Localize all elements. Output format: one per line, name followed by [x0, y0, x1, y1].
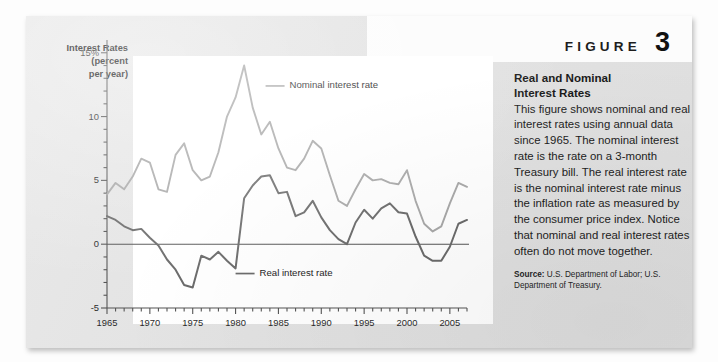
y-tick-label: 5 [51, 174, 99, 185]
figure-word: FIGURE [565, 39, 641, 54]
caption-title: Real and Nominal Interest Rates [514, 70, 690, 101]
y-tick-label: 0 [51, 238, 99, 249]
caption-title-line-2: Interest Rates [514, 85, 690, 100]
figure-number: 3 [655, 30, 670, 54]
x-tick-label: 1990 [301, 317, 341, 328]
x-tick-label: 1985 [258, 317, 298, 328]
x-tick-label: 1975 [173, 317, 213, 328]
figure-panel: FIGURE 3 Interest Rates (percent per yea… [26, 16, 692, 348]
x-tick-label: 2000 [387, 317, 427, 328]
caption-title-line-1: Real and Nominal [514, 70, 690, 85]
y-tick-label: -5 [51, 302, 99, 313]
caption-source-label: Source: [514, 270, 544, 279]
caption-source: Source: U.S. Department of Labor; U.S. D… [514, 269, 690, 292]
x-tick-label: 1995 [344, 317, 384, 328]
y-tick-label: 15% [51, 47, 99, 58]
series-label-nominal: Nominal interest rate [290, 79, 379, 90]
x-tick-label: 2005 [430, 317, 470, 328]
caption-body: This figure shows nominal and real inter… [514, 102, 690, 260]
figure-header: FIGURE 3 [565, 30, 670, 54]
y-tick-label: 10 [51, 111, 99, 122]
x-tick-label: 1965 [87, 317, 127, 328]
series-line-nominal [107, 66, 467, 232]
figure-caption: Real and Nominal Interest Rates This fig… [514, 70, 690, 292]
page-canvas: FIGURE 3 Interest Rates (percent per yea… [0, 0, 718, 362]
x-tick-label: 1980 [216, 317, 256, 328]
x-tick-label: 1970 [130, 317, 170, 328]
series-label-real: Real interest rate [260, 267, 333, 278]
